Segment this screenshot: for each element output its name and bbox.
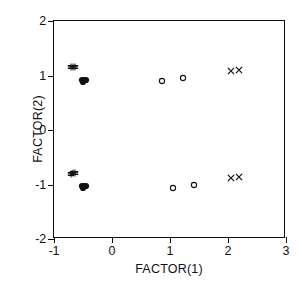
data-point-x-cross [227, 67, 236, 76]
y-tick-mark [48, 76, 54, 77]
y-tick-mark [48, 130, 54, 131]
y-tick-mark [48, 21, 54, 22]
data-point-filled-blob [82, 76, 91, 85]
data-point-filled-blob [77, 75, 86, 84]
data-point-plus-cluster [69, 63, 77, 71]
y-tick-label: -2 [35, 232, 46, 246]
x-tick-label: 2 [225, 244, 232, 258]
data-point-open-circle [190, 181, 199, 190]
data-point-open-circle [178, 74, 187, 83]
x-tick-mark [112, 237, 113, 243]
y-tick-mark [48, 185, 54, 186]
data-point-filled-blob [80, 182, 89, 191]
data-point-plus-cluster [67, 63, 75, 71]
y-tick-label: 2 [39, 14, 46, 28]
x-tick-label: 3 [283, 244, 290, 258]
data-point-open-circle [158, 76, 167, 85]
data-point-x-cross [227, 173, 236, 182]
data-point-filled-blob [77, 182, 86, 191]
data-point-filled-blob [80, 75, 89, 84]
x-tick-label: 0 [109, 244, 116, 258]
data-point-x-cross [235, 66, 244, 75]
data-point-open-circle [168, 183, 177, 192]
data-point-filled-blob [79, 78, 88, 87]
y-tick-label: 1 [39, 69, 46, 83]
data-point-plus-cluster [71, 169, 79, 177]
plot-area: -2-1012 -10123 [53, 20, 285, 238]
x-tick-mark [286, 237, 287, 243]
y-axis-label: FACTOR(2) [31, 95, 45, 163]
data-point-filled-blob [82, 181, 91, 190]
data-point-x-cross [235, 173, 244, 182]
x-tick-label: -1 [49, 244, 60, 258]
data-point-plus-cluster [67, 170, 75, 178]
x-tick-label: 1 [167, 244, 174, 258]
x-tick-mark [228, 237, 229, 243]
x-tick-mark [54, 237, 55, 243]
data-point-filled-blob [79, 183, 88, 192]
data-point-plus-cluster [71, 63, 79, 71]
scatter-plot-figure: -2-1012 -10123 FACTOR(1) FACTOR(2) [0, 0, 302, 290]
y-tick-label: -1 [35, 178, 46, 192]
x-tick-mark [170, 237, 171, 243]
x-axis-label: FACTOR(1) [53, 262, 285, 276]
data-point-plus-cluster [69, 169, 77, 177]
